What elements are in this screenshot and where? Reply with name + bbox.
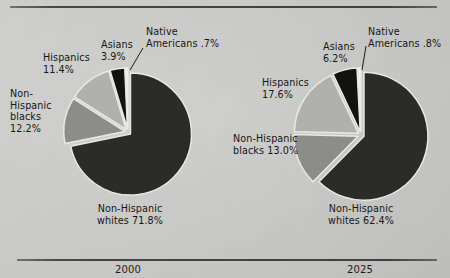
label-asians-2025: Asians 6.2% xyxy=(323,41,355,64)
label-native-americans-2000: Native Americans .7% xyxy=(146,26,219,49)
pie-2000-svg xyxy=(60,64,196,200)
year-label-2000: 2000 xyxy=(83,264,173,275)
label-non-hispanic-blacks-2025: Non-Hispanic blacks 13.0% xyxy=(233,133,298,156)
label-non-hispanic-whites-2025: Non-Hispanic whites 62.4% xyxy=(313,203,409,226)
pie-2025-svg xyxy=(290,64,432,206)
pie-2000-slices xyxy=(64,68,192,195)
label-hispanics-2025: Hispanics 17.6% xyxy=(262,77,309,100)
year-label-2025: 2025 xyxy=(315,264,405,275)
label-non-hispanic-whites-2000: Non-Hispanic whites 71.8% xyxy=(82,203,178,226)
label-non-hispanic-blacks-2000: Non- Hispanic blacks 12.2% xyxy=(10,88,52,134)
pie-2025-slices xyxy=(294,68,428,200)
top-horizontal-rule xyxy=(10,6,437,8)
label-asians-2000: Asians 3.9% xyxy=(101,39,133,62)
bottom-horizontal-rule xyxy=(17,259,437,261)
pie-chart-2025 xyxy=(290,64,432,206)
label-native-americans-2025: Native Americans .8% xyxy=(368,26,441,49)
figure-canvas: Hispanics 11.4% Asians 3.9% Native Ameri… xyxy=(0,0,450,278)
pie-chart-2000 xyxy=(60,64,196,200)
label-hispanics-2000: Hispanics 11.4% xyxy=(43,52,90,75)
